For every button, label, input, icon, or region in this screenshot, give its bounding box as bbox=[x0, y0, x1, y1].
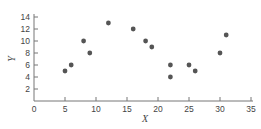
y-tick-label: 6 bbox=[25, 60, 30, 70]
x-axis-label: X bbox=[141, 113, 149, 124]
y-tick-label: 10 bbox=[21, 36, 31, 46]
y-tick-label: 8 bbox=[25, 48, 30, 58]
y-tick-label: 2 bbox=[25, 84, 30, 94]
y-tick-label: 12 bbox=[21, 24, 31, 34]
data-point bbox=[63, 69, 68, 74]
data-point bbox=[69, 63, 74, 68]
data-point bbox=[149, 45, 154, 50]
data-points bbox=[63, 21, 229, 80]
y-tick-label: 4 bbox=[25, 72, 30, 82]
scatter-chart: 05101520253035 2468101214 X Y bbox=[0, 0, 261, 129]
data-point bbox=[131, 27, 136, 32]
x-tick-label: 5 bbox=[63, 104, 68, 114]
x-tick-label: 35 bbox=[246, 104, 256, 114]
data-point bbox=[81, 39, 86, 44]
data-point bbox=[106, 21, 111, 26]
x-axis-ticks: 05101520253035 bbox=[32, 97, 256, 114]
x-tick-label: 15 bbox=[122, 104, 132, 114]
x-tick-label: 0 bbox=[32, 104, 37, 114]
y-axis-label: Y bbox=[6, 55, 17, 62]
y-tick-label: 14 bbox=[21, 12, 31, 22]
data-point bbox=[168, 75, 173, 80]
y-axis-ticks: 2468101214 bbox=[21, 12, 38, 94]
data-point bbox=[187, 63, 192, 68]
data-point bbox=[143, 39, 148, 44]
x-tick-label: 10 bbox=[91, 104, 101, 114]
x-tick-label: 30 bbox=[215, 104, 225, 114]
data-point bbox=[218, 51, 223, 56]
data-point bbox=[224, 33, 229, 38]
data-point bbox=[168, 63, 173, 68]
data-point bbox=[87, 51, 92, 56]
x-tick-label: 20 bbox=[153, 104, 163, 114]
axes bbox=[34, 14, 253, 101]
data-point bbox=[193, 69, 198, 74]
x-tick-label: 25 bbox=[184, 104, 194, 114]
